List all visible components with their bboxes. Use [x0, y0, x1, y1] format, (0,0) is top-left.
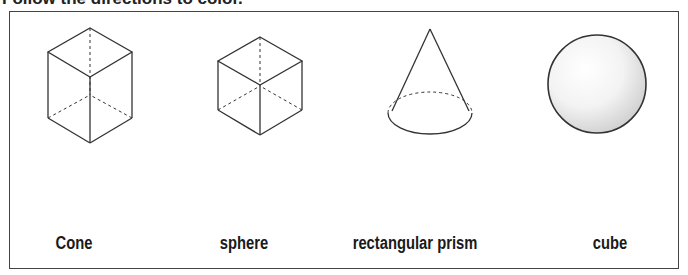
label-4: cube: [593, 233, 627, 254]
cone-shape: [388, 29, 472, 134]
rectangular-prism-shape: [48, 28, 132, 143]
label-3: rectangular prism: [353, 233, 478, 254]
shapes-canvas: [0, 0, 688, 275]
label-1: Cone: [56, 233, 93, 254]
sphere-shape: [548, 35, 646, 133]
cube-shape: [218, 37, 302, 135]
label-2: sphere: [220, 233, 268, 254]
